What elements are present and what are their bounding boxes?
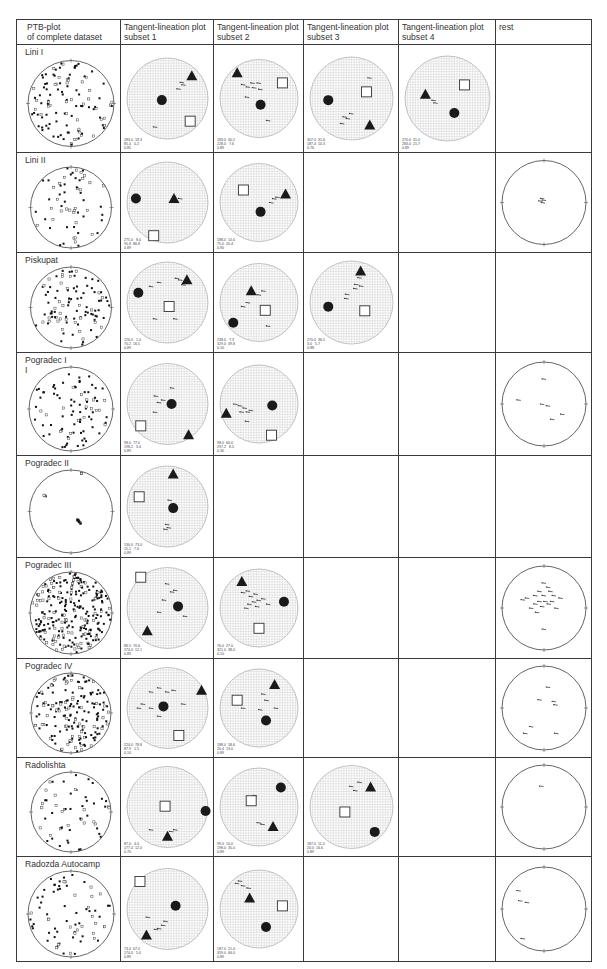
lineation-point	[255, 606, 256, 607]
pole-square	[85, 406, 87, 408]
pole-dot	[92, 411, 94, 413]
pole-dot	[76, 65, 78, 67]
pole-dot	[84, 732, 86, 734]
lineation-point	[256, 822, 257, 823]
pole-dot	[75, 615, 77, 617]
lineation-point	[266, 120, 267, 121]
pole-dot	[76, 711, 78, 713]
pole-dot	[52, 692, 54, 694]
lineation-point	[165, 583, 166, 584]
tangent-lineation-stereonet	[121, 353, 214, 455]
lineation-tick	[517, 891, 521, 892]
pole-dot	[96, 693, 98, 695]
pole-square	[30, 912, 32, 914]
net-outline	[127, 162, 208, 243]
lineation-point	[553, 704, 554, 705]
pole-dot	[95, 582, 97, 584]
pole-square	[95, 410, 97, 412]
lineation-point	[242, 407, 243, 408]
pole-dot	[111, 105, 113, 107]
pole-dot	[109, 619, 111, 621]
pole-dot	[51, 316, 53, 318]
pole-square	[76, 169, 78, 171]
eigenvalue-stats: 86.5 70.6 274.0 12.1 0.89	[124, 644, 142, 656]
lineation-point	[551, 595, 552, 596]
lineation-tick	[174, 830, 178, 831]
pole-dot	[54, 884, 56, 886]
eigenvector-square-marker	[266, 430, 276, 440]
eigenvector-circle-marker	[261, 715, 271, 725]
lineation-point	[529, 726, 530, 727]
pole-dot	[46, 799, 48, 801]
pole-square	[103, 117, 105, 119]
lineation-point	[520, 599, 521, 600]
pole-dot	[36, 631, 38, 633]
eigenvector-triangle-marker	[168, 193, 179, 203]
pole-dot	[68, 726, 70, 728]
pole-dot	[101, 219, 103, 221]
tangent-lineation-stereonet	[399, 45, 496, 152]
lineation-point	[169, 831, 170, 832]
eigenvalue-stats: 187.0 21.0 359.0 66.0 0.89	[217, 947, 235, 959]
lineation-point	[245, 421, 246, 422]
pole-dot	[107, 598, 109, 600]
pole-square	[53, 586, 55, 588]
lineation-tick	[552, 701, 556, 702]
lineation-point	[245, 302, 246, 303]
pole-dot	[47, 127, 49, 129]
lineation-point	[157, 928, 158, 929]
eigenvector-square-marker	[149, 231, 159, 241]
pole-square	[58, 710, 60, 712]
grid-lines	[127, 466, 208, 547]
pole-dot	[73, 318, 75, 320]
pole-square	[93, 135, 95, 137]
table-row: Radolishta87.0 4.0 177.4 12.0 0.7099.0 1…	[17, 758, 592, 857]
pole-dot	[47, 322, 49, 324]
pole-dot	[55, 620, 57, 622]
ptb-plot-cell: Piskupat	[17, 253, 121, 353]
lineation-tick	[246, 87, 250, 88]
pole-dot	[59, 82, 61, 84]
pole-square	[36, 599, 38, 601]
header-subset-1: Tangent-lineation plot subset 1	[121, 20, 214, 45]
pole-square	[86, 209, 88, 211]
ptb-stereonet	[17, 659, 121, 757]
pole-dot	[100, 206, 102, 208]
pole-dot	[70, 703, 72, 705]
pole-dot	[75, 637, 77, 639]
eigenvector-triangle-marker	[142, 625, 153, 635]
pole-square	[80, 744, 82, 746]
pole-square	[58, 597, 60, 599]
pole-dot	[83, 697, 85, 699]
net-outline	[127, 58, 208, 139]
lineation-tick	[262, 694, 266, 695]
pole-square	[72, 697, 74, 699]
pole-square	[54, 794, 56, 796]
lineation-tick	[546, 587, 550, 588]
rest-stereonet	[496, 558, 592, 658]
header-rest: rest	[496, 20, 592, 45]
pole-square	[40, 410, 42, 412]
pole-dot	[50, 878, 52, 880]
eigenvector-circle-marker	[133, 288, 143, 298]
eigenvalue-stats: 270.0 36.5 3.0 5.7 0.88	[307, 338, 325, 350]
pole-dot	[59, 644, 61, 646]
lineation-point	[258, 89, 259, 90]
pole-dot	[73, 644, 75, 646]
pole-square	[52, 577, 54, 579]
pole-dot	[85, 720, 87, 722]
lineation-point	[523, 733, 524, 734]
pole-dot	[48, 198, 50, 200]
pole-dot	[98, 733, 100, 735]
lineation-point	[178, 279, 179, 280]
pole-square	[91, 408, 93, 410]
eigenvalue-stats: 188.0 58.6 20.4 13.0 0.89	[217, 743, 235, 755]
pole-dot	[29, 919, 31, 921]
lineation-point	[235, 883, 236, 884]
pole-square	[40, 637, 42, 639]
pole-dot	[86, 306, 88, 308]
tangent-lineation-stereonet	[214, 558, 304, 658]
lineation-tick	[252, 602, 256, 603]
pole-square	[66, 113, 68, 115]
pole-dot	[35, 619, 37, 621]
